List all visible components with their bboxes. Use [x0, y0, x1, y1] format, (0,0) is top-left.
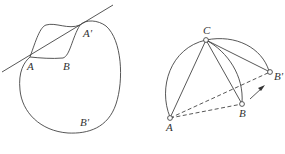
label-C: C	[203, 24, 211, 36]
label-A-left: A	[26, 60, 34, 72]
point-B-prime-right	[268, 70, 273, 75]
dashed-AB	[170, 104, 242, 118]
figure-right	[166, 39, 271, 118]
label-B-left: B	[63, 60, 70, 72]
point-C	[204, 38, 209, 43]
label-B-prime-left: B'	[80, 116, 90, 128]
figure-left	[2, 5, 121, 133]
point-B-right	[240, 102, 245, 107]
diagram-canvas: A B A' B' C A B B'	[0, 0, 285, 154]
label-B-right: B	[239, 107, 246, 119]
segment-CA	[170, 40, 206, 118]
big-loop-curve	[20, 21, 121, 133]
secant-line	[2, 5, 113, 72]
label-B-prime-right: B'	[274, 70, 284, 82]
label-A-right: A	[165, 121, 173, 133]
outer-arc	[166, 39, 270, 117]
label-A-prime-left: A'	[82, 27, 93, 39]
lens-lower-curve	[30, 25, 80, 58]
point-A-right	[168, 116, 173, 121]
